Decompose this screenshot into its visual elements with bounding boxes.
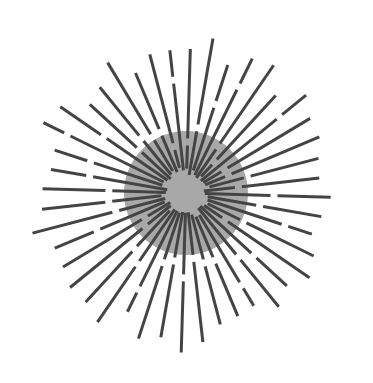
ray-segment [205,194,271,196]
ray-segment [181,281,183,352]
ray-segment [241,260,279,307]
ray-segment [256,258,286,286]
ray-segment [263,206,321,216]
ray-segment [127,293,136,312]
ray-segment [242,178,319,187]
ray-segment [184,213,186,274]
ray-segment [243,288,253,305]
ray-segment [205,266,220,324]
ray-segment [55,232,94,248]
ray-segment [32,212,112,233]
ray-segment [97,267,135,322]
ray-segment [194,262,203,342]
ray-segment [246,223,313,256]
ray-segment [86,251,133,302]
ray-segment [187,146,188,169]
ray-segment [100,87,139,135]
ray-segment [240,59,252,84]
ray-segment [55,150,88,161]
ray-segment [288,226,312,234]
ray-segment [43,123,64,133]
ray-segment [277,196,330,198]
ray-segment [51,169,86,175]
ray-segment [161,264,174,337]
ray-segment [112,191,166,193]
ray-segment [188,49,191,139]
ray-segment [43,189,106,191]
ray-segment [216,65,228,101]
ray-segment [42,202,105,209]
illusion-figure [0,0,373,383]
ray-segment [282,95,306,115]
ray-segment [198,38,213,124]
ray-illusion-graphic [0,0,373,383]
ray-segment [138,266,162,339]
ray-segment [150,54,173,143]
ray-segment [170,50,173,77]
